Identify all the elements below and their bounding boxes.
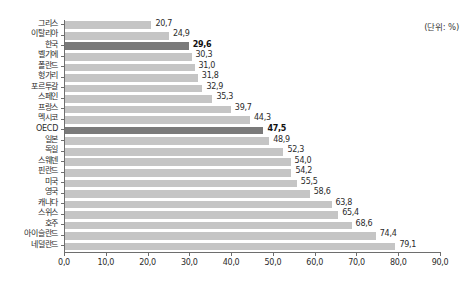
y-axis-tick — [61, 224, 64, 225]
bar — [65, 95, 212, 103]
bar-row: OECD47,5 — [64, 125, 440, 136]
bar-row: 이탈리아24,9 — [64, 31, 440, 42]
y-axis-tick — [61, 87, 64, 88]
bar-row: 스페인35,3 — [64, 94, 440, 105]
x-axis-tick — [64, 252, 65, 256]
category-label: 벨기에 — [38, 50, 58, 61]
bar-row: 스위스65,4 — [64, 210, 440, 221]
bar — [65, 53, 192, 61]
x-axis-tick — [189, 252, 190, 256]
category-label: 캐나다 — [38, 198, 58, 209]
y-axis-tick — [61, 24, 64, 25]
x-axis-tick — [106, 252, 107, 256]
x-axis-tick-label: 20,0 — [139, 258, 156, 267]
bar-value-label: 68,6 — [356, 219, 373, 230]
bar-row: 독일52,3 — [64, 147, 440, 158]
y-axis-tick — [61, 129, 64, 130]
category-label: 아이슬란드 — [24, 229, 58, 240]
x-axis-tick-label: 90,0 — [432, 258, 449, 267]
bar-row: 벨기에30,3 — [64, 52, 440, 63]
bar — [65, 222, 352, 230]
x-axis-tick — [273, 252, 274, 256]
x-axis-tick-label: 0,0 — [58, 258, 70, 267]
x-axis-tick-label: 30,0 — [181, 258, 198, 267]
bar-row: 영국58,6 — [64, 189, 440, 200]
category-label: 스위스 — [38, 208, 58, 219]
x-axis-tick-label: 80,0 — [390, 258, 407, 267]
bar — [65, 21, 151, 29]
bar-value-label: 39,7 — [235, 103, 252, 114]
x-axis-line — [64, 252, 441, 253]
category-label: 호주 — [45, 219, 58, 230]
category-label: 폴란드 — [38, 61, 58, 72]
y-axis-tick — [61, 66, 64, 67]
bar-value-label: 65,4 — [342, 208, 359, 219]
bar — [65, 32, 169, 40]
category-label: 스웨덴 — [38, 156, 58, 167]
category-label: 영국 — [45, 187, 58, 198]
bar — [65, 169, 291, 177]
y-axis-tick — [61, 203, 64, 204]
y-axis-tick — [61, 56, 64, 57]
category-label: 이탈리아 — [31, 29, 58, 40]
x-axis-tick — [148, 252, 149, 256]
y-axis-tick — [61, 182, 64, 183]
category-label: 일본 — [45, 135, 58, 146]
category-label: 핀란드 — [38, 166, 58, 177]
bar-value-label: 55,5 — [301, 177, 318, 188]
category-label: 멕시코 — [38, 113, 58, 124]
bar — [65, 232, 376, 240]
bar — [65, 243, 395, 251]
x-axis-tick — [398, 252, 399, 256]
bar-value-label: 54,2 — [295, 166, 312, 177]
category-label: 그리스 — [38, 19, 58, 30]
y-axis-tick — [61, 245, 64, 246]
bar-value-label: 32,9 — [206, 82, 223, 93]
category-label: 스페인 — [38, 92, 58, 103]
y-axis-tick — [61, 140, 64, 141]
bar — [65, 190, 310, 198]
y-axis-tick — [61, 108, 64, 109]
bar-row: 아이슬란드74,4 — [64, 231, 440, 242]
y-axis-tick — [61, 235, 64, 236]
bar — [65, 211, 338, 219]
bar — [65, 85, 202, 93]
x-axis-tick — [231, 252, 232, 256]
bar-value-label: 24,9 — [173, 29, 190, 40]
bar-value-label: 31,0 — [199, 61, 216, 72]
category-label: 포르투갈 — [31, 82, 58, 93]
y-axis-tick — [61, 77, 64, 78]
y-axis-tick — [61, 151, 64, 152]
bar-value-label: 29,6 — [193, 40, 212, 51]
bar-chart: (단위: %) 그리스20,7이탈리아24,9한국29,6벨기에30,3폴란드3… — [0, 0, 475, 288]
bar-value-label: 58,6 — [314, 187, 331, 198]
plot-area: 그리스20,7이탈리아24,9한국29,6벨기에30,3폴란드31,0헝가리31… — [64, 20, 440, 252]
y-axis-tick — [61, 172, 64, 173]
x-axis-tick-label: 40,0 — [223, 258, 240, 267]
bar-value-label: 48,9 — [273, 135, 290, 146]
bar — [65, 106, 231, 114]
bar — [65, 201, 332, 209]
bar-value-label: 31,8 — [202, 71, 219, 82]
y-axis-tick — [61, 98, 64, 99]
bar-row: 포르투갈32,9 — [64, 83, 440, 94]
bar-row: 프랑스39,7 — [64, 104, 440, 115]
category-label: 헝가리 — [38, 71, 58, 82]
bar-value-label: 30,3 — [196, 50, 213, 61]
bar — [65, 158, 291, 166]
bar-value-label: 35,3 — [216, 92, 233, 103]
y-axis-tick — [61, 35, 64, 36]
category-label: OECD — [36, 124, 58, 135]
bar-row: 그리스20,7 — [64, 20, 440, 31]
category-label: 미국 — [45, 177, 58, 188]
bar-value-label: 44,3 — [254, 113, 271, 124]
x-axis-tick-label: 50,0 — [265, 258, 282, 267]
bar-row: 헝가리31,8 — [64, 73, 440, 84]
y-axis-tick — [61, 161, 64, 162]
bar-row: 캐나다63,8 — [64, 199, 440, 210]
category-label: 네덜란드 — [31, 240, 58, 251]
category-label: 프랑스 — [38, 103, 58, 114]
bar — [65, 127, 263, 135]
y-axis-tick — [61, 119, 64, 120]
bar — [65, 74, 198, 82]
